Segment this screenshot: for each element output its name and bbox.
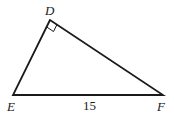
side-ef-length: 15 [83,98,96,113]
triangle-diagram: D E F 15 [0,0,174,118]
vertex-label-e: E [6,99,15,114]
vertex-label-f: F [156,99,166,114]
vertex-label-d: D [44,3,55,18]
triangle-def [13,20,163,95]
